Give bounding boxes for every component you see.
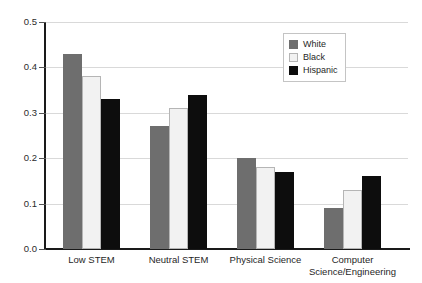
y-axis-tick-mark: [39, 204, 46, 205]
bar: [237, 158, 256, 249]
bar: [82, 76, 101, 249]
bar: [63, 54, 82, 249]
bar: [101, 99, 120, 249]
legend-swatch-icon: [289, 66, 298, 75]
y-axis-tick-label: 0.2: [3, 153, 37, 163]
y-axis-tick-mark: [39, 249, 46, 250]
legend-item-label: Hispanic: [303, 66, 338, 75]
legend-swatch-icon: [289, 40, 298, 49]
legend-item-label: White: [303, 40, 326, 49]
bar: [188, 95, 207, 249]
legend-item: White: [289, 38, 338, 51]
y-axis-tick-mark: [39, 113, 46, 114]
legend-item: Black: [289, 51, 338, 64]
bar: [275, 172, 294, 249]
plot-area: [45, 22, 408, 249]
bar-group: [63, 22, 120, 249]
y-axis-tick-label: 0.0: [3, 244, 37, 254]
y-axis-tick-label: 0.4: [3, 62, 37, 72]
y-axis-tick-mark: [39, 158, 46, 159]
bar: [256, 167, 275, 249]
legend-item: Hispanic: [289, 64, 338, 77]
x-axis-category-label: ComputerScience/Engineering: [298, 254, 408, 277]
bar: [362, 176, 381, 249]
bar-group: [150, 22, 207, 249]
bar-chart: 0.00.10.20.30.40.5 Low STEMNeutral STEMP…: [0, 0, 422, 283]
y-axis-tick-label: 0.5: [3, 17, 37, 27]
y-axis-tick-label: 0.3: [3, 108, 37, 118]
bar: [324, 208, 343, 249]
legend-item-label: Black: [303, 53, 325, 62]
bar: [150, 126, 169, 249]
bar: [343, 190, 362, 249]
y-axis-tick-mark: [39, 22, 46, 23]
legend: WhiteBlackHispanic: [283, 33, 346, 82]
y-axis-tick-label: 0.1: [3, 199, 37, 209]
y-axis-tick-labels: 0.00.10.20.30.40.5: [0, 0, 37, 283]
y-axis-tick-mark: [39, 67, 46, 68]
bar: [169, 108, 188, 249]
legend-swatch-icon: [289, 53, 298, 62]
